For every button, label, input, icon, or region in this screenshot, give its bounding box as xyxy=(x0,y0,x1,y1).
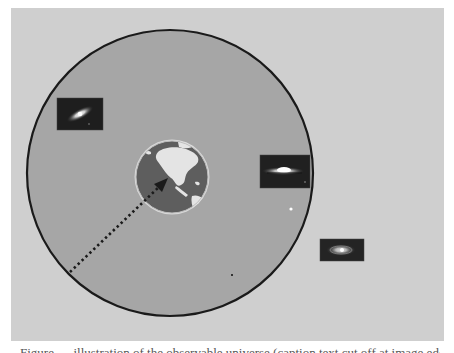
galaxy-image-inside-1 xyxy=(57,98,103,130)
galaxy-image-sombrero xyxy=(260,155,310,188)
galaxy-image-outside xyxy=(320,239,364,261)
figure-caption: Figure — illustration of the observable … xyxy=(20,345,440,353)
star-speck xyxy=(289,207,292,210)
universe-diagram xyxy=(0,0,454,353)
dark-speck xyxy=(231,274,233,276)
